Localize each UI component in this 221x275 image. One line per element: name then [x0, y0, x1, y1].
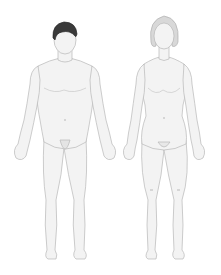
female-torso — [141, 57, 186, 150]
anatomy-illustration — [0, 0, 221, 275]
male-navel — [64, 119, 66, 121]
female-head — [154, 23, 174, 49]
male-torso — [35, 58, 94, 149]
female-navel — [163, 117, 165, 119]
